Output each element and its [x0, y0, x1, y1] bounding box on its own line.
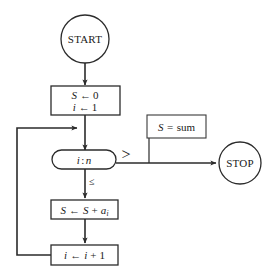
annotation-value: sum — [177, 121, 196, 133]
node-increment-label: i←i+1 — [64, 249, 105, 261]
init-arrow2: ← — [79, 101, 90, 113]
annotation-var: S — [158, 121, 164, 133]
accumulate-subscript: i — [106, 209, 108, 218]
increment-var: i — [64, 249, 67, 261]
increment-arrow: ← — [70, 249, 81, 261]
connector-loop-back — [17, 128, 77, 255]
node-stop-label: STOP — [226, 157, 254, 169]
init-value2: 1 — [92, 101, 98, 113]
increment-plus: + — [90, 249, 96, 261]
node-decision-label: i:n — [77, 154, 92, 166]
decision-sep: : — [81, 154, 84, 166]
flowchart-svg: START S←0 i←1 i:n ＞ ≤ S←S+ai i←i+1 S=sum — [0, 0, 274, 276]
decision-left: i — [77, 154, 80, 166]
increment-expr-b: 1 — [99, 249, 105, 261]
accumulate-expr-a: S — [83, 204, 89, 216]
node-start-label: START — [68, 33, 102, 45]
annotation-equals: = — [167, 121, 173, 133]
init-arrow: ← — [80, 89, 91, 101]
decision-right: n — [86, 154, 92, 166]
init-value: 0 — [93, 89, 99, 101]
increment-expr-a: i — [84, 249, 87, 261]
accumulate-arrow: ← — [69, 204, 80, 216]
init-var2: i — [73, 101, 76, 113]
accumulate-var: S — [60, 204, 66, 216]
branch-label-less-equal: ≤ — [89, 176, 95, 187]
accumulate-plus: + — [91, 204, 97, 216]
branch-label-greater: ＞ — [121, 149, 131, 160]
node-init-line1: S←0 — [72, 89, 100, 101]
init-var: S — [72, 89, 78, 101]
flowchart-canvas: START S←0 i←1 i:n ＞ ≤ S←S+ai i←i+1 S=sum — [0, 0, 274, 276]
